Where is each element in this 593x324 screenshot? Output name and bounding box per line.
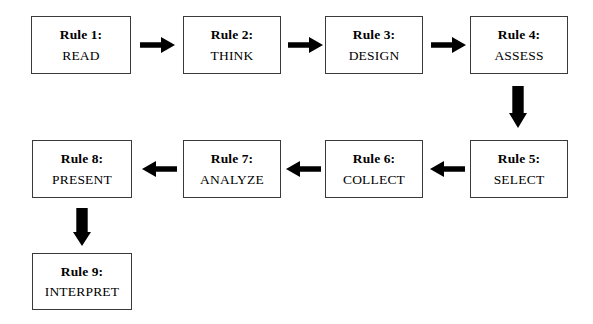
flow-node-rule3: Rule 3: DESIGN: [325, 16, 423, 74]
flow-node-label: COLLECT: [343, 173, 405, 187]
flow-node-rule5: Rule 5: SELECT: [470, 140, 568, 198]
flow-node-label: ANALYZE: [200, 173, 264, 187]
flow-node-rule9: Rule 9: INTERPRET: [32, 253, 132, 310]
flow-node-rule6: Rule 6: COLLECT: [325, 140, 423, 198]
rules-flowchart: Rule 1: READ Rule 2: THINK Rule 3: DESIG…: [0, 0, 593, 324]
flow-node-title: Rule 5:: [498, 152, 540, 166]
flow-node-title: Rule 3:: [353, 28, 395, 42]
arrow-rule8-to-rule9: [73, 208, 91, 248]
flow-node-label: ASSESS: [494, 49, 543, 63]
flow-node-rule1: Rule 1: READ: [31, 16, 131, 74]
arrow-rule3-to-rule4: [431, 36, 467, 54]
arrow-rule6-to-rule7: [285, 160, 321, 178]
flow-node-title: Rule 2:: [211, 28, 253, 42]
flow-node-title: Rule 1:: [60, 28, 102, 42]
flow-node-title: Rule 4:: [498, 28, 540, 42]
arrow-rule1-to-rule2: [140, 36, 176, 54]
flow-node-label: SELECT: [494, 173, 545, 187]
flow-node-title: Rule 9:: [61, 265, 103, 279]
flow-node-title: Rule 7:: [211, 152, 253, 166]
flow-node-label: THINK: [211, 49, 254, 63]
flow-node-rule4: Rule 4: ASSESS: [470, 16, 568, 74]
flow-node-label: READ: [62, 49, 100, 63]
arrow-rule2-to-rule3: [288, 36, 324, 54]
arrow-rule7-to-rule8: [141, 160, 177, 178]
flow-node-rule8: Rule 8: PRESENT: [32, 140, 132, 198]
flow-node-rule2: Rule 2: THINK: [183, 16, 281, 74]
flow-node-label: PRESENT: [52, 173, 112, 187]
flow-node-title: Rule 8:: [61, 152, 103, 166]
arrow-rule4-to-rule5: [509, 86, 527, 130]
flow-node-label: INTERPRET: [45, 285, 120, 299]
flow-node-title: Rule 6:: [353, 152, 395, 166]
flow-node-label: DESIGN: [349, 49, 400, 63]
flow-node-rule7: Rule 7: ANALYZE: [183, 140, 281, 198]
arrow-rule5-to-rule6: [429, 160, 465, 178]
